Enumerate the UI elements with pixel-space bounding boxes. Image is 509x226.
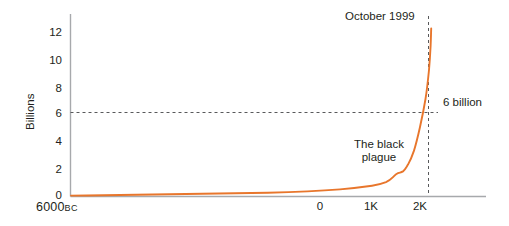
annotation-six-billion: 6 billion <box>443 96 482 109</box>
x-axis-origin-label: 6000BC <box>36 200 78 214</box>
annotation-black-plague-line1: The black <box>341 138 417 151</box>
y-tick-2: 2 <box>40 163 62 176</box>
population-growth-chart: 12 10 8 6 4 2 0 Billions 6000BC 0 1K 2K … <box>0 0 509 226</box>
annotation-black-plague-line2: plague <box>341 151 417 164</box>
x-tick-2k: 2K <box>409 200 431 213</box>
y-axis-title: Billions <box>24 94 37 130</box>
x-origin-value: 6000 <box>36 200 65 214</box>
annotation-october-1999: October 1999 <box>345 10 415 23</box>
y-tick-6: 6 <box>40 107 62 120</box>
x-tick-1k: 1K <box>360 200 382 213</box>
annotation-black-plague: The black plague <box>341 138 417 164</box>
y-tick-4: 4 <box>40 135 62 148</box>
y-tick-12: 12 <box>40 26 62 39</box>
x-tick-0: 0 <box>310 200 330 213</box>
y-tick-8: 8 <box>40 82 62 95</box>
x-origin-era: BC <box>65 203 78 213</box>
y-tick-10: 10 <box>40 54 62 67</box>
chart-plot-area <box>0 0 509 226</box>
